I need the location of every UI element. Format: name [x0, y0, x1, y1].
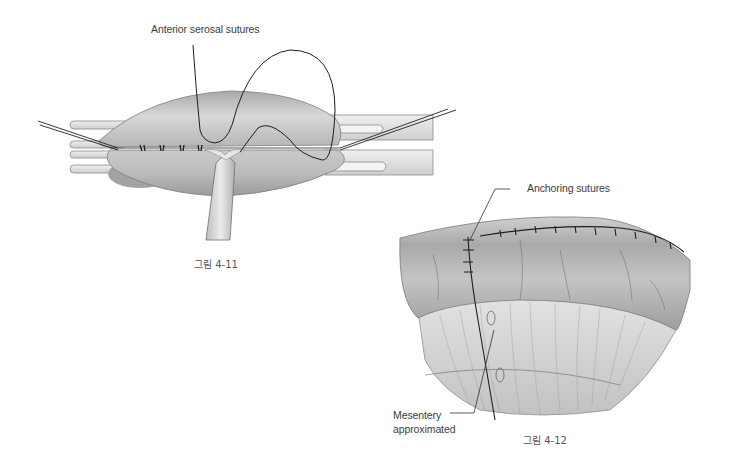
label-mesentery-line1: Mesentery — [393, 409, 441, 421]
figure-4-12-illustration — [400, 217, 690, 420]
illustration-canvas — [0, 0, 753, 457]
label-anterior-serosal-sutures: Anterior serosal sutures — [151, 23, 259, 35]
upper-bowel-segment — [99, 91, 341, 147]
figure-4-11-illustration — [38, 45, 456, 240]
label-anchoring-sutures: Anchoring sutures — [527, 182, 610, 194]
caption-figure-4-11: 그림 4-11 — [194, 256, 238, 271]
right-clamp — [325, 115, 433, 175]
label-mesentery-line2: approximated — [393, 423, 455, 435]
caption-figure-4-12: 그림 4-12 — [523, 432, 567, 447]
